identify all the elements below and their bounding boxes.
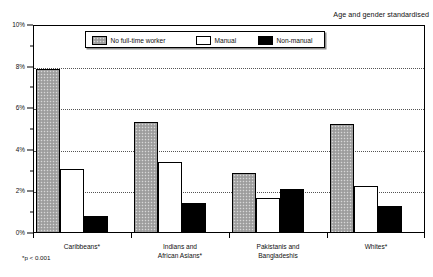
- bar: [60, 169, 84, 233]
- bar: [36, 69, 60, 233]
- y-tick-label-8: 8%: [16, 63, 25, 69]
- bar: [354, 186, 378, 233]
- bar: [182, 203, 206, 233]
- grey-stipple-swatch: [92, 36, 107, 45]
- y-tick-label-6: 6%: [16, 105, 25, 111]
- chart-figure: Age and gender standardised 0%2%4%6%8%10…: [0, 0, 433, 277]
- legend-label: No full-time worker: [111, 37, 166, 44]
- x-axis-category-label: Whites*: [327, 242, 425, 251]
- bar: [280, 189, 304, 233]
- black-swatch: [258, 36, 273, 45]
- y-tick-label-2: 2%: [16, 188, 25, 194]
- legend-label: Non-manual: [277, 37, 313, 44]
- bar-series-container: [33, 25, 425, 233]
- x-axis-separator: [33, 233, 34, 238]
- bar: [232, 173, 256, 233]
- bar: [84, 216, 108, 233]
- y-axis: 0%2%4%6%8%10%: [0, 25, 33, 233]
- x-axis-category-label: Pakistanis and Bangladeshis: [229, 242, 327, 260]
- x-axis: Caribbeans*Indians and African Asians*Pa…: [33, 233, 425, 277]
- bar: [378, 206, 402, 233]
- chart-annotation: Age and gender standardised: [333, 10, 429, 19]
- chart-footnote: *p < 0.001: [22, 254, 50, 261]
- x-axis-separator: [327, 233, 328, 238]
- bar: [330, 124, 354, 233]
- legend-item[interactable]: Non-manual: [258, 35, 312, 46]
- y-tick-label-0: 0%: [16, 230, 25, 236]
- bar: [134, 122, 158, 233]
- x-axis-category-label: Indians and African Asians*: [131, 242, 229, 260]
- y-tick-label-4: 4%: [16, 147, 25, 153]
- x-axis-separator: [131, 233, 132, 238]
- bar: [158, 162, 182, 233]
- legend-label: Manual: [215, 37, 237, 44]
- x-axis-category-label: Caribbeans*: [33, 242, 131, 251]
- x-axis-separator: [424, 233, 425, 238]
- legend-item[interactable]: Manual: [196, 35, 236, 46]
- white-swatch: [196, 36, 211, 45]
- x-axis-separator: [229, 233, 230, 238]
- y-tick-label-10: 10%: [12, 22, 25, 28]
- bar: [256, 198, 280, 233]
- legend-item[interactable]: No full-time worker: [92, 35, 165, 46]
- chart-legend: No full-time workerManualNon-manual: [85, 31, 325, 48]
